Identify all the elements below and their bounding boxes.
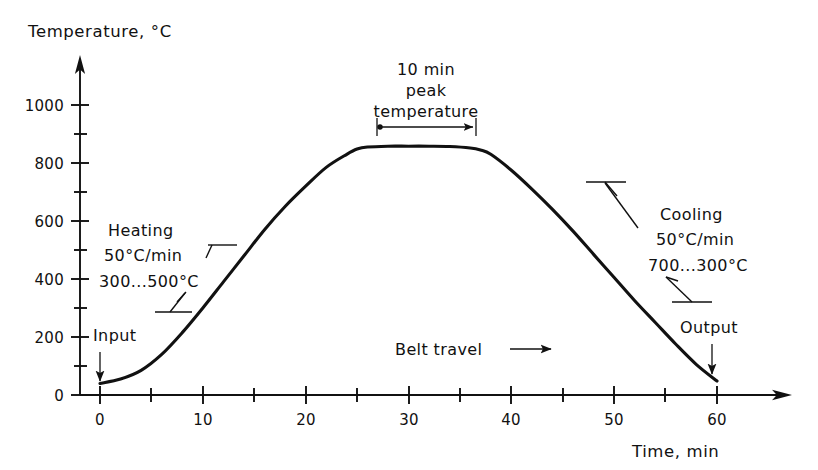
y-tick-label-1000: 1000: [25, 97, 64, 115]
x-tick-label-50: 50: [604, 411, 624, 429]
peak-label-line2: peak: [406, 81, 447, 100]
peak-temperature-annotation: 10 min peak temperature: [374, 60, 479, 136]
heating-leader-top-tick: [206, 245, 212, 258]
x-tick-label-40: 40: [501, 411, 521, 429]
cooling-label-line2: 50°C/min: [656, 230, 734, 249]
input-label: Input: [93, 326, 136, 345]
x-axis-title: Time, min: [631, 442, 719, 461]
heating-label-line1: Heating: [108, 221, 174, 240]
output-annotation: Output: [680, 318, 738, 374]
thermal-profile-chart: 1000 800 600 400 200 0 Temperature, °C: [0, 0, 818, 470]
y-tick-label-600: 600: [34, 213, 64, 231]
y-tick-label-800: 800: [34, 155, 64, 173]
x-tick-label-10: 10: [193, 411, 213, 429]
x-tick-label-30: 30: [399, 411, 419, 429]
cooling-label-line3: 700...300°C: [648, 256, 748, 275]
cooling-leader-top-head: [605, 182, 617, 196]
heating-leader-bottom-head: [177, 292, 186, 302]
cooling-leader-bottom-stroke: [666, 277, 692, 302]
y-tick-label-400: 400: [34, 271, 64, 289]
y-axis: 1000 800 600 400 200 0 Temperature, °C: [25, 22, 172, 405]
heating-annotation: Heating 50°C/min 300...500°C: [99, 221, 237, 312]
y-tick-label-200: 200: [34, 329, 64, 347]
heating-label-line3: 300...500°C: [99, 272, 199, 291]
x-axis: 0 10 20 30 40 50 60 Time, min: [80, 386, 792, 461]
cooling-annotation: Cooling 50°C/min 700...300°C: [586, 182, 748, 302]
output-label: Output: [680, 318, 738, 337]
input-annotation: Input: [93, 326, 136, 381]
chart-canvas: 1000 800 600 400 200 0 Temperature, °C: [0, 0, 818, 470]
belt-travel-label: Belt travel: [395, 340, 482, 359]
peak-label-line3: temperature: [374, 102, 479, 121]
cooling-leader-top-stroke: [605, 183, 638, 228]
belt-travel-annotation: Belt travel: [395, 340, 551, 359]
y-axis-title: Temperature, °C: [27, 22, 172, 41]
cooling-label-line1: Cooling: [660, 205, 723, 224]
peak-label-line1: 10 min: [397, 60, 455, 79]
x-tick-label-0: 0: [95, 411, 105, 429]
y-tick-label-0: 0: [54, 387, 64, 405]
x-tick-label-20: 20: [296, 411, 316, 429]
x-tick-label-60: 60: [707, 411, 727, 429]
heating-label-line2: 50°C/min: [104, 246, 182, 265]
